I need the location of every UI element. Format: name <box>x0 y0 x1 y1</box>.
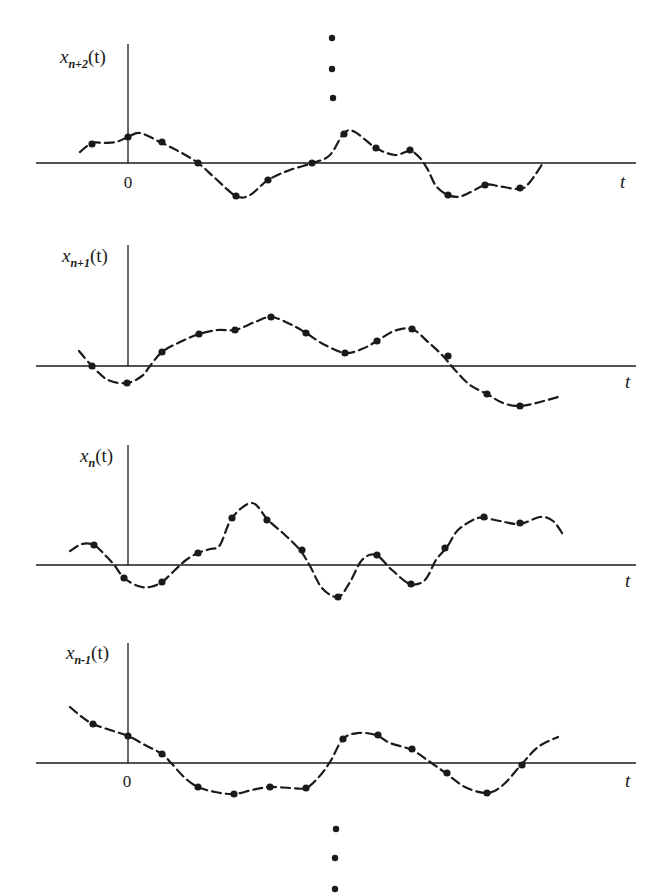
sample-point <box>408 745 415 752</box>
sample-point <box>195 330 202 337</box>
sample-point <box>518 761 525 768</box>
sample-point <box>443 769 450 776</box>
ellipsis-dot <box>333 826 339 832</box>
sample-point <box>483 390 490 397</box>
sample-point <box>124 133 131 140</box>
sample-point <box>123 379 130 386</box>
panel-x-n-plus-2: xn+2(t)t0 <box>36 44 636 200</box>
sample-point <box>124 732 131 739</box>
sample-point <box>308 159 315 166</box>
sample-point <box>298 546 305 553</box>
sample-point <box>516 402 523 409</box>
sample-point <box>88 140 95 147</box>
origin-label: 0 <box>124 173 133 192</box>
time-axis-label: t <box>625 570 631 591</box>
ellipsis-dot <box>332 886 338 892</box>
sample-function-panels: xn+2(t)t0xn+1(t)txn(t)txn-1(t)t0 <box>36 44 636 798</box>
time-axis-label: t <box>625 371 631 392</box>
ellipsis-dot <box>329 35 335 41</box>
sample-point <box>340 130 347 137</box>
sample-point <box>408 325 415 332</box>
sample-point <box>407 580 414 587</box>
panel-x-n-plus-1: xn+1(t)t <box>36 245 636 410</box>
panel-x-n-minus-1: xn-1(t)t0 <box>36 642 636 798</box>
sample-point <box>302 329 309 336</box>
sample-point <box>194 783 201 790</box>
sample-function-curve <box>70 503 564 597</box>
sample-point <box>120 574 127 581</box>
sample-point <box>373 337 380 344</box>
sample-point <box>444 352 451 359</box>
ellipsis-top-icon <box>329 35 336 101</box>
sample-point <box>372 144 379 151</box>
sample-point <box>339 735 346 742</box>
function-label: xn+2(t) <box>59 46 106 71</box>
sample-point <box>89 720 96 727</box>
sample-point <box>158 750 165 757</box>
sample-point <box>334 593 341 600</box>
sample-point <box>483 789 490 796</box>
sample-point <box>480 513 487 520</box>
ensemble-figure: xn+2(t)t0xn+1(t)txn(t)txn-1(t)t0 <box>0 0 671 896</box>
sample-point <box>267 313 274 320</box>
sample-point <box>374 731 381 738</box>
time-axis-label: t <box>625 770 631 791</box>
sample-point <box>231 326 238 333</box>
ellipsis-dot <box>332 855 338 861</box>
sample-point <box>194 159 201 166</box>
sample-point <box>516 519 523 526</box>
sample-point <box>341 349 348 356</box>
function-label: xn+1(t) <box>61 245 108 270</box>
sample-point <box>302 784 309 791</box>
sample-point <box>406 146 413 153</box>
sample-point <box>158 348 165 355</box>
sample-point <box>88 362 95 369</box>
sample-point <box>373 551 380 558</box>
sample-point <box>516 184 523 191</box>
ellipsis-dot <box>329 66 335 72</box>
ellipsis-bottom-icon <box>332 826 339 892</box>
time-axis-label: t <box>620 171 626 192</box>
function-label: xn-1(t) <box>65 642 109 667</box>
sample-point <box>441 544 448 551</box>
sample-point <box>194 549 201 556</box>
sample-point <box>230 790 237 797</box>
sample-point <box>266 783 273 790</box>
sample-point <box>481 181 488 188</box>
sample-point <box>228 514 235 521</box>
sample-point <box>232 192 239 199</box>
sample-point <box>158 138 165 145</box>
ellipsis-dot <box>330 95 336 101</box>
sample-point <box>263 516 270 523</box>
panel-x-n: xn(t)t <box>36 445 636 601</box>
sample-point <box>444 191 451 198</box>
sample-function-curve <box>70 707 558 794</box>
function-label: xn(t) <box>79 445 113 470</box>
sample-point <box>90 541 97 548</box>
origin-label: 0 <box>123 772 132 791</box>
sample-point <box>158 578 165 585</box>
sample-point <box>264 176 271 183</box>
